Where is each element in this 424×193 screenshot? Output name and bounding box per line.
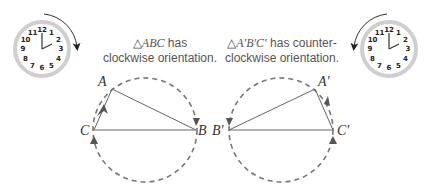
clock-numeral: 12 [384, 26, 394, 34]
vertex-c-label: C [80, 123, 90, 138]
clock-numeral: 6 [40, 64, 45, 72]
triangle-a-prime-b-prime-c-prime: A′ B′ C′ [212, 74, 350, 182]
clock-numeral: 10 [368, 36, 378, 44]
clock-numeral: 8 [370, 55, 375, 63]
caption-text: has counter- [267, 36, 337, 50]
clock-numeral: 11 [375, 29, 385, 37]
vertex-b-label: B [198, 123, 207, 138]
caption-line2: clockwise orientation. [103, 51, 217, 65]
clock-numeral: 4 [403, 55, 408, 63]
clock-numeral: 1 [396, 29, 401, 37]
clock-numeral: 2 [56, 36, 61, 44]
clock-numeral: 10 [21, 36, 31, 44]
clock-numeral: 5 [396, 62, 401, 70]
triangle-name: A′B′C′ [236, 36, 267, 50]
clock-numeral: 12 [37, 26, 47, 34]
triangle-symbol: △ [227, 36, 236, 50]
vertex-a-label: A [97, 74, 107, 89]
clock-numeral: 4 [56, 55, 61, 63]
caption-text: has [164, 36, 187, 50]
vertex-a-prime-label: A′ [317, 74, 331, 89]
clock-numeral: 7 [30, 62, 35, 70]
left-caption: △ABC has clockwise orientation. [100, 36, 220, 66]
clock-numeral: 6 [387, 64, 392, 72]
caption-line2: clockwise orientation. [225, 51, 339, 65]
triangle-symbol: △ [133, 36, 142, 50]
triangle-name: ABC [142, 36, 165, 50]
clock-numeral: 7 [377, 62, 382, 70]
clock-numeral: 11 [28, 29, 38, 37]
clock-numeral: 8 [23, 55, 28, 63]
clock-numeral: 1 [49, 29, 54, 37]
vertex-c-prime-label: C′ [337, 123, 350, 138]
right-caption: △A′B′C′ has counter- clockwise orientati… [216, 36, 348, 66]
triangle-abc: A B C [80, 74, 207, 182]
clock-numeral: 3 [59, 45, 64, 53]
orientation-diagram: 121234567891011 121234567891011 A B C A′… [0, 0, 424, 193]
clock-numeral: 9 [21, 45, 26, 53]
clock-numeral: 5 [49, 62, 54, 70]
vertex-b-prime-label: B′ [212, 123, 225, 138]
clock-clockwise-icon: 121234567891011 [15, 14, 77, 76]
clock-numeral: 2 [403, 36, 408, 44]
clock-counterclockwise-icon: 121234567891011 [354, 14, 416, 76]
clock-numeral: 9 [368, 45, 373, 53]
clock-numeral: 3 [406, 45, 411, 53]
